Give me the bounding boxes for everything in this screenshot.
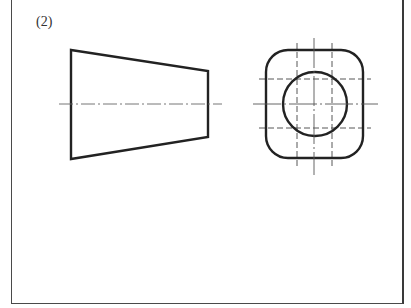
side-view: [253, 38, 378, 175]
front-view: [59, 50, 222, 159]
technical-drawing: [0, 0, 411, 308]
trapezoid-outline: [71, 50, 208, 159]
